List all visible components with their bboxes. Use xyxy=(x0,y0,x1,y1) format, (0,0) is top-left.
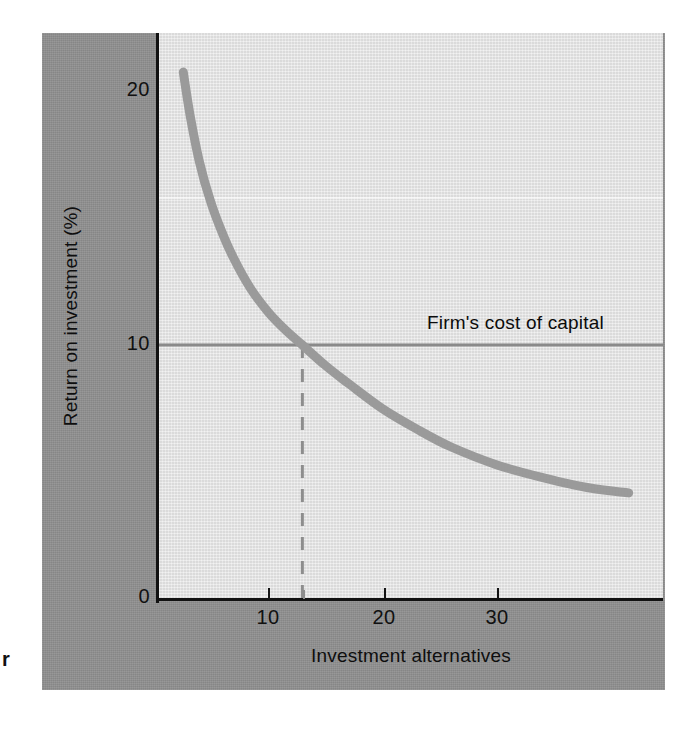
y-axis-title: Return on investment (%) xyxy=(60,166,82,466)
x-tick-label-20: 20 xyxy=(354,606,414,629)
investment-opportunity-curve xyxy=(178,73,303,351)
chart-figure: r 20 10 0 10 20 30 Investment alternativ… xyxy=(0,0,697,733)
x-axis-title: Investment alternatives xyxy=(159,645,663,667)
x-tick-label-10: 10 xyxy=(238,606,298,629)
cost-of-capital-annotation: Firm's cost of capital xyxy=(427,312,604,334)
chart-plot-svg xyxy=(0,0,697,733)
x-tick-label-30: 30 xyxy=(467,606,527,629)
roi-curve xyxy=(183,72,628,493)
y-tick-label-0: 0 xyxy=(104,585,150,608)
y-tick-label-10: 10 xyxy=(104,332,150,355)
y-tick-label-20: 20 xyxy=(104,78,150,101)
